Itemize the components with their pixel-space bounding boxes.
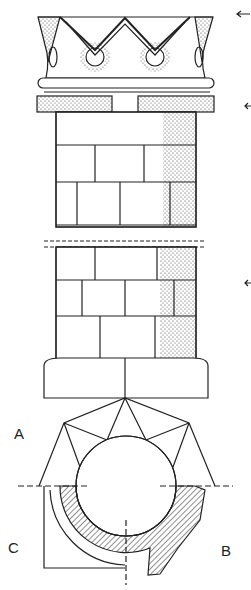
label-c: C xyxy=(8,539,19,556)
capital xyxy=(37,17,214,112)
arrow-icon xyxy=(237,11,250,17)
arrow-icon xyxy=(245,103,251,109)
arrow-icon xyxy=(245,280,251,286)
column-drawing xyxy=(0,0,251,590)
shaft xyxy=(44,112,208,398)
plan xyxy=(18,398,233,585)
label-b: B xyxy=(221,542,231,559)
label-a: A xyxy=(14,425,24,442)
